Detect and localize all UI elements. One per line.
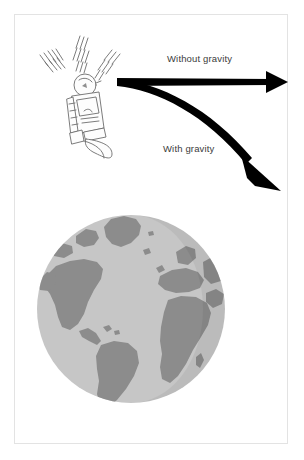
earth-globe: [37, 215, 227, 408]
satellite-tail-crescent: [84, 139, 112, 158]
with-gravity-label: With gravity: [163, 143, 214, 154]
signal-lines-right: [95, 50, 120, 80]
diagram-canvas: [0, 0, 304, 460]
satellite: [40, 36, 120, 158]
with-gravity-arrow: [117, 79, 281, 191]
physics-diagram: Without gravity With gravity: [0, 0, 304, 460]
signal-lines-center: [73, 36, 89, 73]
without-gravity-label: Without gravity: [167, 53, 232, 64]
signal-lines-left: [40, 49, 65, 72]
